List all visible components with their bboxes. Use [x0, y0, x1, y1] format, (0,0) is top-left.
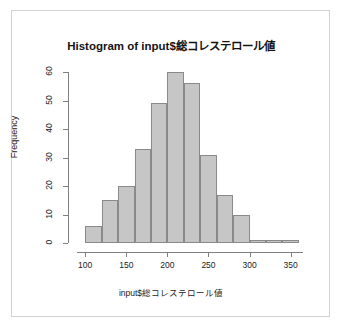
y-axis-line	[68, 72, 69, 243]
y-tick-mark	[63, 101, 68, 102]
y-tick-label: 20	[44, 172, 54, 198]
x-axis-line	[77, 252, 303, 253]
histogram-bar	[217, 195, 233, 243]
x-tick-label: 250	[193, 260, 223, 270]
x-tick-label: 150	[111, 260, 141, 270]
y-axis-title: Frequency	[9, 97, 19, 177]
x-tick-mark	[250, 252, 251, 257]
x-tick-label: 300	[235, 260, 265, 270]
histogram-bar	[167, 72, 183, 243]
histogram-bar	[184, 83, 200, 243]
histogram-bar	[200, 155, 216, 243]
x-tick-label: 350	[276, 260, 306, 270]
histogram-bar	[151, 103, 167, 243]
y-tick-mark	[63, 215, 68, 216]
histogram-bar	[85, 226, 101, 243]
x-tick-label: 200	[152, 260, 182, 270]
chart-title: Histogram of input$総コレステロール値	[0, 37, 342, 53]
histogram-bar	[102, 200, 118, 243]
x-tick-mark	[126, 252, 127, 257]
x-tick-mark	[208, 252, 209, 257]
histogram-bar	[233, 215, 249, 244]
y-tick-mark	[63, 72, 68, 73]
x-tick-mark	[167, 252, 168, 257]
y-tick-mark	[63, 158, 68, 159]
y-tick-mark	[63, 186, 68, 187]
x-axis-title: input$総コレステロール値	[0, 286, 342, 298]
x-tick-label: 100	[70, 260, 100, 270]
y-tick-label: 0	[44, 229, 54, 255]
y-tick-mark	[63, 243, 68, 244]
histogram-bar	[118, 186, 134, 243]
histogram-bar	[266, 240, 282, 243]
y-tick-label: 60	[44, 58, 54, 84]
y-tick-label: 30	[44, 144, 54, 170]
y-tick-label: 10	[44, 201, 54, 227]
histogram-chart: Histogram of input$総コレステロール値 Frequency i…	[0, 0, 342, 329]
x-tick-mark	[85, 252, 86, 257]
histogram-bar	[135, 149, 151, 243]
y-tick-label: 50	[44, 87, 54, 113]
histogram-bar	[250, 240, 266, 243]
y-tick-mark	[63, 129, 68, 130]
x-tick-mark	[291, 252, 292, 257]
y-tick-label: 40	[44, 115, 54, 141]
histogram-bar	[282, 240, 298, 243]
